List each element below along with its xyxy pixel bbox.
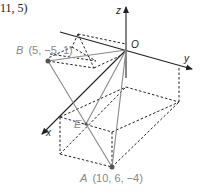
point-e-label: E (74, 118, 82, 130)
top-partial-label: 11, 5) (0, 1, 28, 15)
origin-label: O (131, 39, 139, 50)
point-b-marker (46, 59, 51, 64)
vector-3d-diagram: 11, 5) O z y x B (5, −5, 1) A (10, 6, −4… (0, 0, 206, 194)
point-a-marker (110, 165, 115, 170)
point-b-label: B (5, −5, 1) (16, 44, 73, 56)
line-o-to-e (86, 50, 126, 124)
line-o-to-a (112, 50, 126, 167)
point-a-label: A (10, 6, −4) (79, 172, 143, 184)
x-axis-label: x (45, 127, 52, 138)
line-b-to-a (48, 61, 112, 167)
y-axis-label: y (183, 53, 190, 64)
point-e-marker (84, 122, 87, 125)
z-axis-label: z (115, 5, 121, 16)
dashed-box-a (60, 66, 179, 167)
